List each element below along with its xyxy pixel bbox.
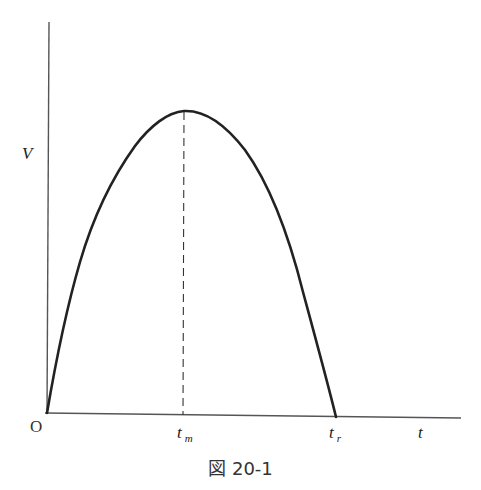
tick-label-tm-sub: m	[185, 432, 193, 444]
tick-label-tr: tr	[329, 424, 341, 441]
figure: V O tm tr t 図 20-1	[0, 0, 481, 490]
peak-dashed-line	[183, 112, 184, 415]
origin-label: O	[30, 418, 42, 435]
figure-caption: 図 20-1	[0, 454, 481, 480]
tick-label-tm: tm	[177, 424, 193, 441]
plot-area	[0, 0, 481, 490]
velocity-curve	[47, 111, 336, 417]
x-axis-label: t	[418, 424, 423, 441]
y-axis-label: V	[22, 145, 32, 162]
tick-label-tr-base: t	[329, 423, 334, 442]
tick-label-tm-base: t	[177, 423, 182, 442]
tick-label-tr-sub: r	[337, 432, 341, 444]
y-axis	[47, 22, 49, 413]
x-axis	[45, 413, 461, 418]
